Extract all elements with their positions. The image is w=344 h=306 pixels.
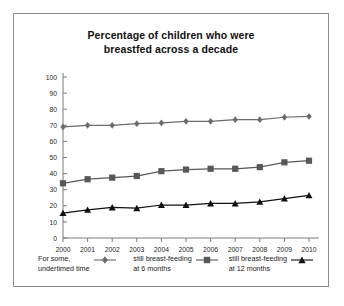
y-axis-tick-label: 80: [49, 106, 57, 113]
legend-label-2-line-2: at 12 months: [229, 264, 287, 274]
legend-label-1-line-1: still breast-feeding: [133, 254, 191, 264]
legend-item-still-breastfeeding-12-months[interactable]: still breast-feeding at 12 months: [229, 254, 324, 273]
legend-label-0: For some, undertimed time: [38, 254, 90, 273]
x-axis-tick-label: 2004: [154, 246, 169, 253]
legend-label-2-line-1: still breast-feeding: [229, 254, 287, 264]
x-axis-tick-label: 2005: [178, 246, 193, 253]
legend-label-1-line-2: at 6 months: [133, 264, 191, 274]
x-axis-tick-label: 2009: [277, 246, 292, 253]
x-axis-tick-label: 2002: [105, 246, 120, 253]
legend-key-square-icon: [196, 255, 218, 265]
y-axis-tick-label: 30: [49, 186, 57, 193]
legend-label-2: still breast-feeding at 12 months: [229, 254, 287, 273]
x-axis-tick-label: 2010: [301, 246, 316, 253]
legend-label-0-line-1: For some,: [38, 254, 90, 264]
legend-key-diamond-icon: [94, 255, 116, 265]
chart-page: Percentage of children who were breastfe…: [0, 0, 344, 306]
y-axis-tick-label: 100: [46, 74, 58, 81]
y-axis-tick-label: 50: [49, 154, 57, 161]
legend-label-1: still breast-feeding at 6 months: [133, 254, 191, 273]
series-1: [60, 158, 312, 187]
x-axis-tick-label: 2000: [55, 246, 70, 253]
legend-item-for-some-undertimed-time[interactable]: For some, undertimed time: [24, 254, 133, 273]
chart-legend: For some, undertimed time still breast-f…: [24, 254, 324, 284]
plot-area: 0102030405060708090100200020012002200320…: [14, 14, 330, 288]
x-axis-tick-label: 2008: [252, 246, 267, 253]
y-axis-tick-label: 10: [49, 219, 57, 226]
y-axis-tick-label: 70: [49, 122, 57, 129]
legend-key-triangle-icon: [291, 255, 313, 265]
y-axis-tick-label: 20: [49, 202, 57, 209]
x-axis-tick-label: 2006: [203, 246, 218, 253]
y-axis-tick-label: 60: [49, 138, 57, 145]
legend-item-still-breastfeeding-6-months[interactable]: still breast-feeding at 6 months: [133, 254, 228, 273]
series-2: [60, 192, 313, 216]
line-chart-svg: 0102030405060708090100200020012002200320…: [14, 14, 330, 288]
x-axis-tick-label: 2003: [129, 246, 144, 253]
y-axis-tick-label: 90: [49, 90, 57, 97]
y-axis-tick-label: 40: [49, 170, 57, 177]
x-axis-tick-label: 2001: [80, 246, 95, 253]
y-axis-tick-label: 0: [53, 235, 57, 242]
legend-label-0-line-2: undertimed time: [38, 264, 90, 274]
watermark-text: [20, 290, 320, 302]
series-0: [60, 113, 311, 130]
x-axis-tick-label: 2007: [228, 246, 243, 253]
figure-frame: Percentage of children who were breastfe…: [13, 13, 329, 287]
